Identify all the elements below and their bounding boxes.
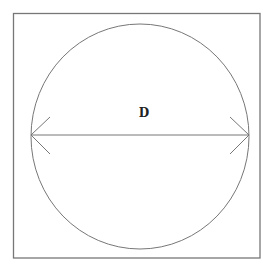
diameter-label: D [139,106,149,120]
diagram-canvas: D [0,0,271,265]
bounding-square [14,14,261,259]
circle [31,24,249,249]
circle-diameter-diagram: D [0,0,271,265]
